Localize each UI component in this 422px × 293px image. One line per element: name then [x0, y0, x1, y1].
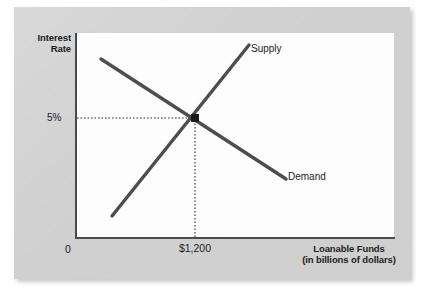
figure-root: InterestRate Loanable Funds(in billions … [0, 0, 422, 293]
y-tick-label-5-percent: 5% [47, 112, 61, 123]
y-axis-title: InterestRate [16, 33, 71, 54]
x-tick-label-quantity: $1,200 [163, 243, 227, 255]
x-axis-title-line2: (in billions of dollars) [302, 254, 396, 265]
supply-curve [112, 45, 249, 216]
supply-curve-label: Supply [251, 43, 282, 54]
x-axis-title: Loanable Funds(in billions of dollars) [292, 244, 406, 265]
equilibrium-point-marker [191, 114, 199, 122]
demand-curve-label: Demand [288, 171, 326, 182]
y-axis-title-line2: Rate [51, 43, 71, 54]
origin-label: 0 [65, 244, 71, 256]
y-axis-title-line1: Interest [37, 32, 71, 43]
x-axis-title-line1: Loanable Funds [313, 243, 384, 254]
